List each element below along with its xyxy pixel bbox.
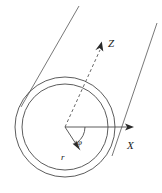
x-axis-group: X	[65, 124, 135, 151]
figure-container: Z X r φ	[0, 0, 162, 193]
angle-phi-label: φ	[77, 137, 82, 147]
z-axis-group: Z	[65, 37, 115, 127]
angle-phi-group: φ	[77, 127, 85, 147]
radius-vector-line	[65, 127, 76, 144]
tube-body-lines	[21, 6, 157, 156]
x-axis-label: X	[126, 139, 135, 151]
radius-label: r	[61, 152, 65, 162]
z-axis-arrowhead	[95, 42, 103, 52]
tube-generator-line-right	[112, 23, 157, 156]
tube-coordinate-diagram: Z X r φ	[0, 0, 162, 193]
z-axis-label: Z	[108, 37, 115, 49]
z-axis-dashed-line	[65, 50, 100, 127]
